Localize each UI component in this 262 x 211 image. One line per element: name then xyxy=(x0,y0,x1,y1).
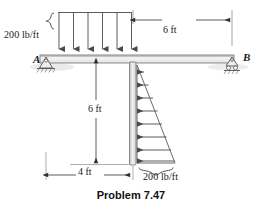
vertical-column xyxy=(130,62,137,165)
dimension-right-label: 6 ft xyxy=(163,25,177,35)
support-a-label: A xyxy=(33,54,40,65)
top-load-label: 200 lb/ft xyxy=(4,30,39,40)
brace-top-load xyxy=(46,13,54,29)
dimension-vertical-label: 6 ft xyxy=(88,104,102,114)
dimension-right-span xyxy=(133,10,232,46)
uniform-distributed-load xyxy=(46,13,132,50)
dimension-bottom-label: 4 ft xyxy=(78,167,92,177)
triangular-distributed-load xyxy=(137,65,175,175)
engineering-diagram: 200 lb/ft 6 ft A B 6 ft 4 ft 200 lb/ft P… xyxy=(0,0,262,211)
figure-caption: Problem 7.47 xyxy=(0,189,262,201)
support-b-label: B xyxy=(243,52,250,63)
side-load-label: 200 lb/ft xyxy=(143,172,178,182)
diagram-canvas xyxy=(0,0,262,211)
horizontal-beam xyxy=(40,55,234,63)
